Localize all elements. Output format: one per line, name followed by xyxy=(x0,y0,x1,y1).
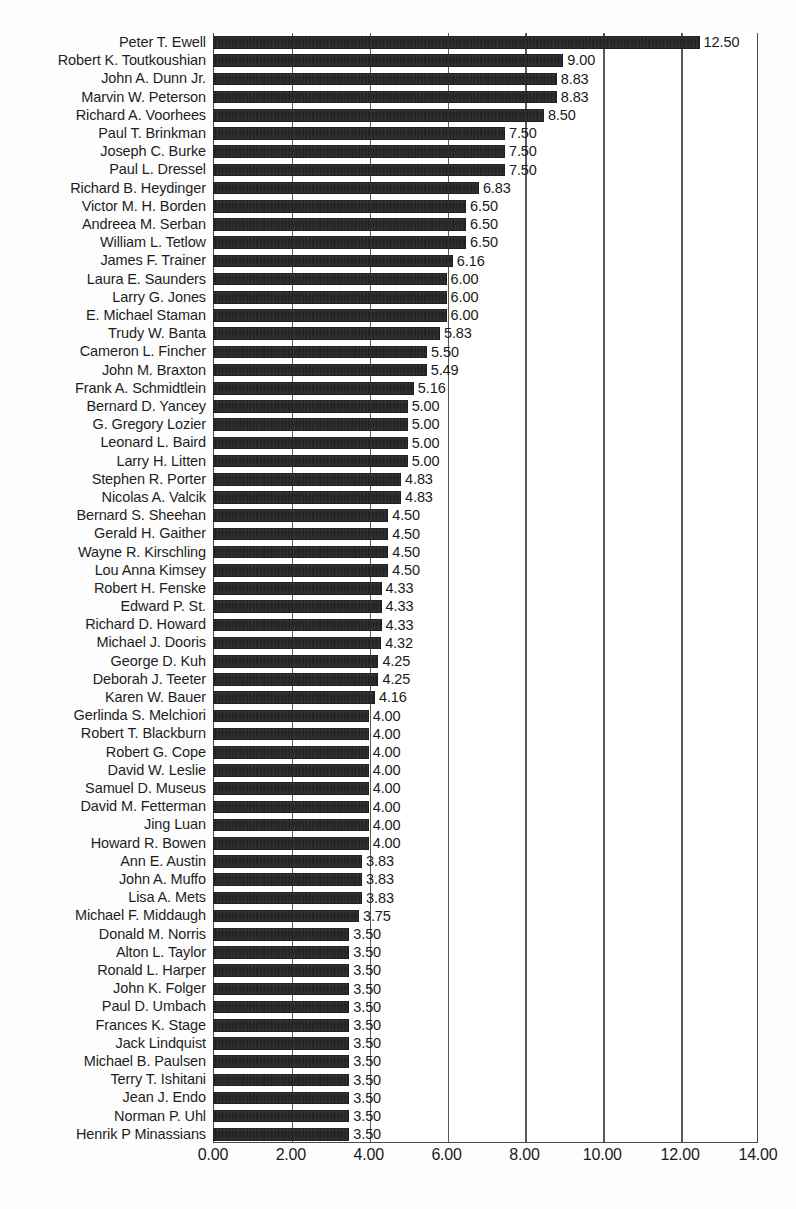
bar-value-label: 3.50 xyxy=(353,1074,381,1087)
bar-container: 4.00 xyxy=(213,801,369,814)
bar-value-label: 8.50 xyxy=(548,109,576,122)
x-tick-label: 0.00 xyxy=(198,1146,228,1164)
x-tick-label: 4.00 xyxy=(354,1146,384,1164)
bar-value-label: 4.33 xyxy=(386,600,414,613)
bar xyxy=(213,145,505,158)
bar-container: 4.50 xyxy=(213,564,388,577)
category-label: Michael F. Middaugh xyxy=(0,906,206,925)
bar-container: 4.50 xyxy=(213,546,388,559)
bar-container: 7.50 xyxy=(213,145,505,158)
bar-value-label: 3.83 xyxy=(366,892,394,905)
bar xyxy=(213,236,466,249)
category-label: Lou Anna Kimsey xyxy=(0,561,206,580)
bar-container: 3.83 xyxy=(213,892,362,905)
bar-row: Larry H. Litten5.00 xyxy=(0,452,796,471)
category-label: Lisa A. Mets xyxy=(0,888,206,907)
category-label: Samuel D. Museus xyxy=(0,779,206,798)
category-label: Marvin W. Peterson xyxy=(0,88,206,107)
bar xyxy=(213,418,408,431)
bar-container: 3.50 xyxy=(213,928,349,941)
bar xyxy=(213,782,369,795)
bar-row: Norman P. Uhl3.50 xyxy=(0,1107,796,1126)
category-label: Richard B. Heydinger xyxy=(0,179,206,198)
bar xyxy=(213,291,447,304)
bar xyxy=(213,946,349,959)
bar-container: 4.00 xyxy=(213,837,369,850)
bar xyxy=(213,218,466,231)
bar-value-label: 3.50 xyxy=(353,1001,381,1014)
bar xyxy=(213,892,362,905)
bar xyxy=(213,582,382,595)
bar-row: E. Michael Staman6.00 xyxy=(0,306,796,325)
bar-container: 5.00 xyxy=(213,455,408,468)
category-label: Paul T. Brinkman xyxy=(0,124,206,143)
x-tick-label: 2.00 xyxy=(276,1146,306,1164)
category-label: Trudy W. Banta xyxy=(0,324,206,343)
bar-value-label: 4.00 xyxy=(373,819,401,832)
category-label: Gerald H. Gaither xyxy=(0,524,206,543)
bar-value-label: 5.49 xyxy=(431,364,459,377)
bar-container: 3.50 xyxy=(213,983,349,996)
bar xyxy=(213,964,349,977)
category-label: Henrik P Minassians xyxy=(0,1125,206,1144)
bar-value-label: 5.00 xyxy=(412,455,440,468)
bar-row: Paul L. Dressel7.50 xyxy=(0,160,796,179)
bar xyxy=(213,491,401,504)
bar-container: 12.50 xyxy=(213,36,700,49)
bar-container: 5.00 xyxy=(213,400,408,413)
bar-value-label: 5.00 xyxy=(412,418,440,431)
bar-row: William L. Tetlow6.50 xyxy=(0,233,796,252)
bar-value-label: 6.50 xyxy=(470,200,498,213)
category-label: Norman P. Uhl xyxy=(0,1107,206,1126)
bar-container: 5.00 xyxy=(213,437,408,450)
bar xyxy=(213,455,408,468)
bar-row: Bernard D. Yancey5.00 xyxy=(0,397,796,416)
bar xyxy=(213,910,359,923)
category-label: Robert G. Cope xyxy=(0,743,206,762)
category-label: David W. Leslie xyxy=(0,761,206,780)
bar-container: 3.50 xyxy=(213,1001,349,1014)
bar-value-label: 4.83 xyxy=(405,473,433,486)
bar-value-label: 4.00 xyxy=(373,710,401,723)
bar xyxy=(213,309,447,322)
bar-value-label: 3.50 xyxy=(353,964,381,977)
category-label: Richard D. Howard xyxy=(0,615,206,634)
bar xyxy=(213,528,388,541)
bar xyxy=(213,1037,349,1050)
bar-row: Robert K. Toutkoushian9.00 xyxy=(0,51,796,70)
bar-container: 5.16 xyxy=(213,382,414,395)
bar xyxy=(213,509,388,522)
category-label: John A. Muffo xyxy=(0,870,206,889)
category-label: Leonard L. Baird xyxy=(0,433,206,452)
bar xyxy=(213,273,447,286)
bar-container: 3.50 xyxy=(213,1128,349,1141)
x-tick-label: 10.00 xyxy=(583,1146,622,1164)
category-label: Larry G. Jones xyxy=(0,288,206,307)
bar-row: Robert H. Fenske4.33 xyxy=(0,579,796,598)
bar xyxy=(213,36,700,49)
bar-row: Richard D. Howard4.33 xyxy=(0,615,796,634)
bar-value-label: 3.50 xyxy=(353,1092,381,1105)
bar-value-label: 12.50 xyxy=(704,36,740,49)
bar-row: Robert G. Cope4.00 xyxy=(0,743,796,762)
bar-container: 5.50 xyxy=(213,346,427,359)
bar xyxy=(213,164,505,177)
bar-value-label: 4.32 xyxy=(385,637,413,650)
bar-container: 4.83 xyxy=(213,473,401,486)
x-tick-label: 14.00 xyxy=(738,1146,777,1164)
bar-value-label: 3.50 xyxy=(353,928,381,941)
bar-row: Marvin W. Peterson8.83 xyxy=(0,88,796,107)
bar xyxy=(213,655,378,668)
bar-row: Richard B. Heydinger6.83 xyxy=(0,179,796,198)
bar-row: Ronald L. Harper3.50 xyxy=(0,961,796,980)
category-label: Peter T. Ewell xyxy=(0,33,206,52)
category-label: Frank A. Schmidtlein xyxy=(0,379,206,398)
category-label: Wayne R. Kirschling xyxy=(0,543,206,562)
category-label: G. Gregory Lozier xyxy=(0,415,206,434)
bar-row: Ann E. Austin3.83 xyxy=(0,852,796,871)
category-label: Robert H. Fenske xyxy=(0,579,206,598)
bar-value-label: 4.50 xyxy=(392,546,420,559)
bar-container: 3.50 xyxy=(213,1074,349,1087)
category-label: George D. Kuh xyxy=(0,652,206,671)
bar-row: Robert T. Blackburn4.00 xyxy=(0,724,796,743)
